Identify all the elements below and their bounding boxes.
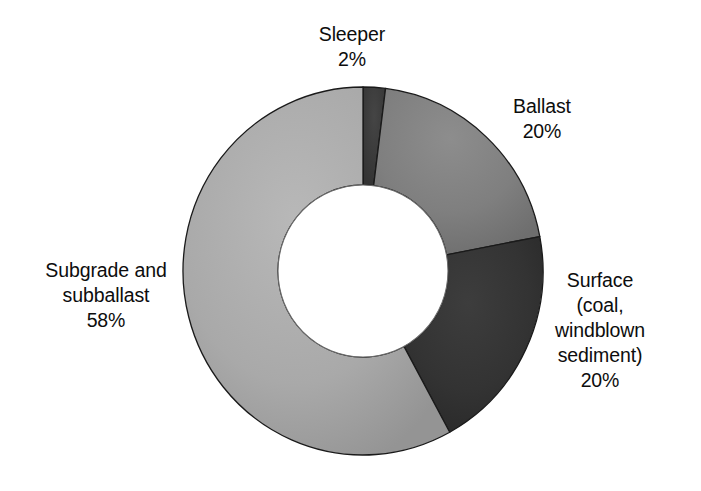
donut-chart: Sleeper 2% Ballast 20% Surface (coal, wi…: [0, 0, 701, 491]
donut-chart-graphic: [0, 0, 701, 491]
donut-hole: [278, 185, 448, 357]
slice-label-surface: Surface (coal, windblown sediment) 20%: [510, 268, 690, 393]
slice-label-ballast: Ballast 20%: [452, 94, 632, 144]
slice-label-sleeper: Sleeper 2%: [252, 22, 452, 72]
slice-label-subgrade: Subgrade and subballast 58%: [8, 258, 204, 333]
